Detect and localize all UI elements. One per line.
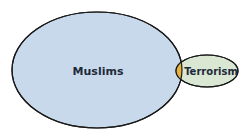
venn-diagram: Muslims Terrorism <box>0 0 240 135</box>
muslims-label: Muslims <box>73 65 124 78</box>
terrorism-label: Terrorism <box>184 66 238 77</box>
